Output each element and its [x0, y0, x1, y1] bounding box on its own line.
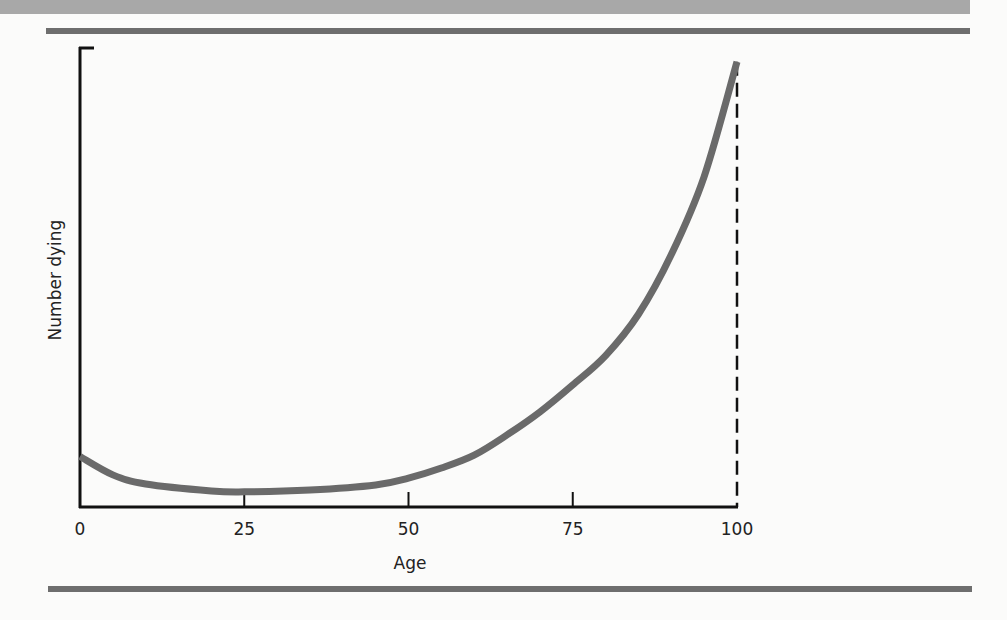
- mortality-curve: [80, 62, 737, 492]
- x-tick-label: 50: [398, 519, 420, 539]
- x-ticks: 0255075100: [75, 492, 754, 539]
- bottom-divider-rule: [48, 586, 972, 592]
- plot-area: 0255075100 Age Number dying: [45, 47, 753, 573]
- y-axis-title: Number dying: [45, 220, 65, 341]
- x-tick-label: 100: [721, 519, 753, 539]
- x-tick-label: 75: [562, 519, 584, 539]
- x-tick-label: 0: [75, 519, 86, 539]
- x-axis-title: Age: [394, 553, 427, 573]
- x-tick-label: 25: [233, 519, 255, 539]
- survival-chart: 0255075100 Age Number dying: [0, 0, 1007, 620]
